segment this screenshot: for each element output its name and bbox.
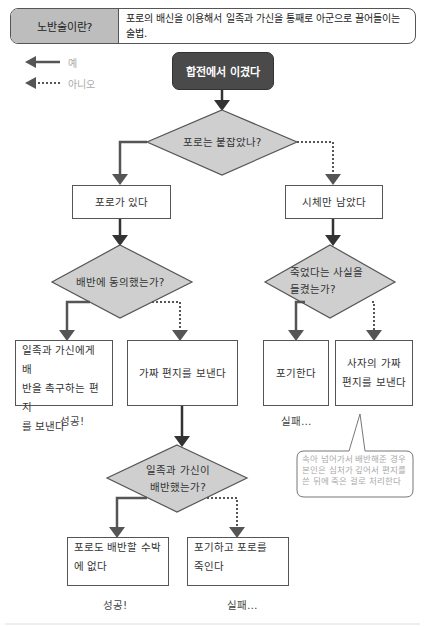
definition-label: 노반술이란? <box>11 9 119 43</box>
result-fail-2: 실패… <box>227 597 258 612</box>
result-fail-1: 실패… <box>281 413 312 428</box>
decision-2-text: 배반에 동의했는가? <box>62 274 178 291</box>
process-send-fake-letter: 가짜 편지를 보낸다 <box>127 340 238 406</box>
definition-description: 포로의 배신을 이용해서 일족과 가신을 통째로 아군으로 끌어들이는 술법. <box>119 9 415 43</box>
process-send-betrayal-letter: 일족과 가신에게 배 반을 촉구하는 편지 를 보낸다 <box>15 340 113 406</box>
process-only-corpses: 시체만 남았다 <box>285 185 383 219</box>
process-line: 포로도 배반할 수박 <box>74 538 161 557</box>
decision-4-line: 일족과 가신이 <box>132 462 224 479</box>
process-prisoner-must-betray: 포로도 배반할 수박 에 없다 <box>67 537 169 586</box>
process-send-messenger-fake-letter: 사자의 가짜 편지를 보낸다 <box>335 340 413 406</box>
decision-4-line: 배반했는가? <box>132 479 224 496</box>
process-line: 반을 촉구하는 편지 <box>22 379 106 417</box>
process-kill-prisoner: 포기하고 포로를 죽인다 <box>187 537 289 586</box>
process-line: 일족과 가신에게 배 <box>22 341 106 379</box>
process-label: 포로가 있다 <box>95 193 148 212</box>
start-node: 합전에서 이겼다 <box>172 52 274 90</box>
flowchart-connectors <box>0 0 425 626</box>
result-success-2: 성공! <box>103 597 127 612</box>
legend-yes-label: 예 <box>68 55 77 70</box>
process-line: 를 보낸다 <box>22 417 65 436</box>
process-label: 가짜 편지를 보낸다 <box>139 364 226 383</box>
legend-no-label: 아니오 <box>68 76 95 91</box>
result-success-1: 성공! <box>60 413 84 428</box>
process-has-prisoner: 포로가 있다 <box>72 185 171 219</box>
process-give-up: 포기한다 <box>263 340 329 406</box>
decision-3-text: 죽었다는 사실을 들켰는가? <box>290 264 374 298</box>
process-line: 죽인다 <box>194 557 224 576</box>
decision-3-line: 들켰는가? <box>290 281 374 298</box>
callout-note: 속아 넘어가서 배반해준 경우 본인은 심처가 깊어서 편지를 쓴 뒤에 죽은 … <box>297 451 413 497</box>
process-line: 사자의 가짜 <box>347 354 400 373</box>
process-label: 시체만 남았다 <box>302 193 365 212</box>
legend-no-arrow <box>25 77 60 89</box>
decision-3-line: 죽었다는 사실을 <box>290 264 374 281</box>
legend-yes-arrow <box>25 56 60 68</box>
process-line: 포기하고 포로를 <box>194 538 267 557</box>
decision-4-text: 일족과 가신이 배반했는가? <box>132 462 224 496</box>
decision-1-text: 포로는 붙잡았나? <box>167 134 277 151</box>
definition-header: 노반술이란? 포로의 배신을 이용해서 일족과 가신을 통째로 아군으로 끌어들… <box>10 8 416 44</box>
process-line: 편지를 보낸다 <box>342 373 405 392</box>
process-label: 포기한다 <box>276 364 316 383</box>
process-line: 에 없다 <box>74 557 107 576</box>
